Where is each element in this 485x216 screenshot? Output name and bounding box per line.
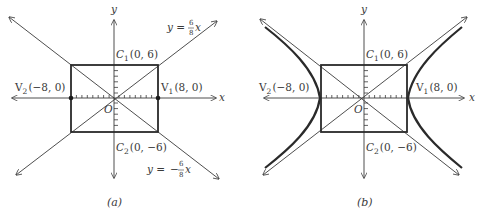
y-axis-label: y <box>110 3 118 15</box>
equation-positive-asymptote: y = 6 8 x <box>166 19 201 37</box>
svg-text:8: 8 <box>179 171 183 179</box>
x-axis-label: x <box>219 91 225 103</box>
svg-text:x: x <box>185 163 191 175</box>
asymptote-negative <box>260 19 459 175</box>
caption-a: (a) <box>107 196 122 209</box>
svg-text:−: − <box>170 163 179 175</box>
x-axis-label: x <box>469 91 475 103</box>
label-c2: C2(0, −6) <box>116 141 167 156</box>
svg-text:6: 6 <box>189 19 194 27</box>
hyperbola-left-branch <box>265 27 320 168</box>
panel-b: y x O C1(0, 6) C2(0, −6) V1(8, 0) V2(−8,… <box>258 3 475 209</box>
svg-text:y =: y = <box>166 21 185 33</box>
svg-text:y =: y = <box>146 163 165 175</box>
label-v2: V2(−8, 0) <box>258 81 309 96</box>
label-v2: V2(−8, 0) <box>14 81 65 96</box>
label-v1: V1(8, 0) <box>415 81 458 96</box>
label-c2: C2(0, −6) <box>366 141 417 156</box>
vertex-v2-dot <box>69 96 74 101</box>
asymptote-positive <box>263 17 467 175</box>
label-v1: V1(8, 0) <box>160 81 203 96</box>
hyperbola-figure: y x O C1(0, 6) C2(0, −6) V1(8, 0) V2(−8,… <box>0 0 485 216</box>
caption-b: (b) <box>357 196 373 209</box>
y-axis-label: y <box>360 3 368 15</box>
label-c1: C1(0, 6) <box>116 48 158 63</box>
label-c1: C1(0, 6) <box>366 48 408 63</box>
svg-text:x: x <box>195 21 201 33</box>
origin-label: O <box>104 103 113 115</box>
equation-negative-asymptote: y = − 6 8 x <box>146 160 191 179</box>
panel-a: y x O C1(0, 6) C2(0, −6) V1(8, 0) V2(−8,… <box>9 3 225 209</box>
vertex-v1-dot <box>156 96 161 101</box>
origin-label: O <box>354 103 363 115</box>
svg-text:8: 8 <box>189 29 193 37</box>
svg-text:6: 6 <box>179 160 184 168</box>
